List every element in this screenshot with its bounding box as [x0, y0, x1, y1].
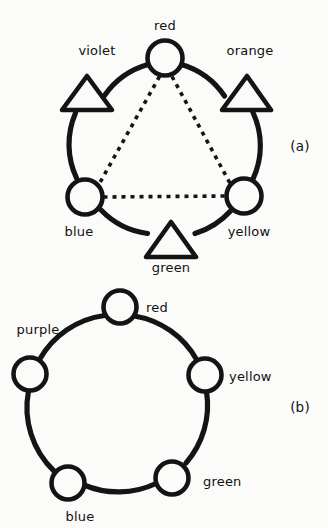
label-b-red: red [146, 300, 168, 315]
node-a-orange [222, 76, 271, 110]
label-a-green: green [152, 260, 191, 275]
caption-panel-b: (b) [290, 399, 310, 415]
node-b-red [104, 291, 137, 324]
label-a-orange: orange [227, 43, 274, 58]
figure-page: red violet orange blue yellow green (a) [0, 0, 328, 528]
node-a-blue [68, 180, 103, 215]
node-a-red [148, 41, 183, 76]
label-a-yellow: yellow [228, 224, 271, 239]
panel-b: red yellow green blue purple (b) [14, 291, 310, 525]
caption-panel-a: (a) [290, 138, 309, 154]
panel-a-chord-triangle [98, 77, 232, 198]
label-a-blue: blue [65, 224, 94, 239]
label-b-green: green [203, 474, 242, 489]
label-a-violet: violet [78, 43, 115, 58]
node-a-yellow [227, 179, 262, 214]
panel-a: red violet orange blue yellow green (a) [62, 18, 310, 275]
node-a-green [146, 222, 196, 257]
label-a-red: red [154, 18, 176, 33]
label-b-purple: purple [17, 322, 60, 337]
figure-canvas: red violet orange blue yellow green (a) [0, 0, 328, 528]
node-b-blue [52, 467, 85, 500]
node-b-yellow [189, 359, 222, 392]
node-b-purple [14, 358, 47, 391]
node-b-green [156, 462, 189, 495]
label-b-blue: blue [66, 509, 95, 524]
label-b-yellow: yellow [229, 369, 272, 384]
chord-blue-yellow [104, 196, 226, 197]
